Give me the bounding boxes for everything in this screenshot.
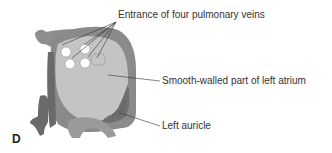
pulmonary-vein-opening [80, 58, 90, 68]
label-pulmonary-veins: Entrance of four pulmonary veins [118, 9, 265, 21]
panel-letter: D [12, 132, 21, 146]
pulmonary-vein-opening [61, 47, 71, 57]
label-smooth-walled-part: Smooth-walled part of left atrium [162, 75, 306, 87]
pulmonary-vein-opening [65, 59, 75, 69]
lower-left-vessel-shape [30, 95, 48, 136]
label-left-auricle: Left auricle [162, 120, 211, 132]
left-atrium-figure: Entrance of four pulmonary veins Smooth-… [0, 0, 332, 153]
pulmonary-vein-opening [80, 44, 90, 54]
